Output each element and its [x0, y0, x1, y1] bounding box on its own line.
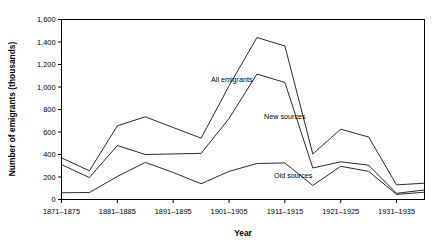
chart-container: 02004006008001,0001,2001,4001,600 1871–1… — [0, 0, 441, 246]
y-axis-tick-label: 600 — [43, 128, 55, 137]
series-line-all-emigrants — [62, 38, 425, 185]
y-axis-ticks: 02004006008001,0001,2001,4001,600 — [37, 15, 62, 204]
y-axis-tick-label: 1,600 — [37, 15, 56, 24]
x-axis-ticks: 1871–18751881–18851891–18951901–19051911… — [43, 200, 415, 216]
series-annotation-new-sources: New sources — [264, 112, 306, 121]
series-line-new-sources — [62, 74, 425, 193]
x-axis-tick-label: 1871–1875 — [43, 207, 80, 216]
x-axis-tick-label: 1891–1895 — [155, 207, 192, 216]
y-axis-tick-label: 1,400 — [37, 38, 56, 47]
y-axis-title: Number of emigrants (thousands) — [7, 42, 17, 177]
x-axis-title: Year — [234, 228, 252, 238]
x-axis-tick-label: 1881–1885 — [99, 207, 136, 216]
emigration-line-chart: 02004006008001,0001,2001,4001,600 1871–1… — [0, 0, 441, 246]
x-axis-tick-label: 1911–1915 — [267, 207, 303, 216]
y-axis-tick-label: 200 — [43, 173, 55, 182]
series-annotation-all-emigrants: All emigrants — [211, 75, 253, 84]
x-axis-tick-label: 1901–1905 — [211, 207, 248, 216]
y-axis-tick-label: 400 — [43, 150, 55, 159]
x-axis-tick-label: 1921–1925 — [322, 207, 359, 216]
y-axis-tick-label: 1,000 — [37, 83, 56, 92]
series-annotation-old-sources: Old sources — [274, 171, 313, 180]
series-lines — [62, 38, 425, 195]
x-axis-tick-label: 1931–1935 — [378, 207, 415, 216]
y-axis-tick-label: 0 — [51, 195, 55, 204]
y-axis-tick-label: 800 — [43, 105, 55, 114]
y-axis-tick-label: 1,200 — [37, 60, 56, 69]
